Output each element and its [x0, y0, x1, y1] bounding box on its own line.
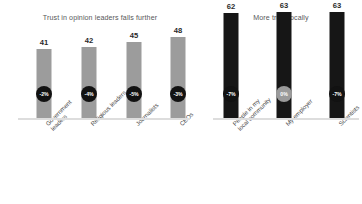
bar: [127, 42, 142, 118]
bar-value-label: 41: [26, 38, 62, 47]
bar-group: 63-7%Scientists: [319, 0, 355, 118]
bar: [224, 13, 239, 118]
bar-group: 45-5%Journalists: [116, 0, 152, 118]
bar-group: 62-7%People in my local community: [213, 0, 249, 118]
chart-panel-left: Trust in opinion leaders falls further 4…: [0, 0, 200, 204]
bar-group: 48-3%CEOs: [160, 0, 196, 118]
change-badge: -5%: [126, 86, 142, 102]
bar: [82, 47, 97, 118]
bar-value-label: 42: [71, 36, 107, 45]
bar-value-label: 45: [116, 31, 152, 40]
change-badge: -4%: [81, 86, 97, 102]
bar: [37, 49, 52, 118]
change-badge: 0%: [276, 86, 292, 102]
change-badge: -2%: [36, 86, 52, 102]
panel-right-plot: 62-7%People in my local community630%My …: [200, 0, 362, 118]
panel-right-baseline: [213, 118, 359, 120]
change-badge: -3%: [170, 86, 186, 102]
change-badge: -7%: [223, 86, 239, 102]
bar: [330, 12, 345, 118]
change-badge: -7%: [329, 86, 345, 102]
bar: [277, 12, 292, 118]
chart-panel-right: More trust locally 62-7%People in my loc…: [200, 0, 362, 204]
bar-value-label: 63: [319, 1, 355, 10]
bar-value-label: 63: [266, 1, 302, 10]
bar-group: 42-4%Religious leaders: [71, 0, 107, 118]
panel-left-plot: 41-2%Government leaders42-4%Religious le…: [0, 0, 200, 118]
bar-value-label: 48: [160, 26, 196, 35]
bar-value-label: 62: [213, 2, 249, 11]
chart-canvas: Trust in opinion leaders falls further 4…: [0, 0, 362, 204]
bar-group: 630%My employer: [266, 0, 302, 118]
bar-group: 41-2%Government leaders: [26, 0, 62, 118]
bar: [171, 37, 186, 118]
panel-left-baseline: [18, 118, 190, 120]
